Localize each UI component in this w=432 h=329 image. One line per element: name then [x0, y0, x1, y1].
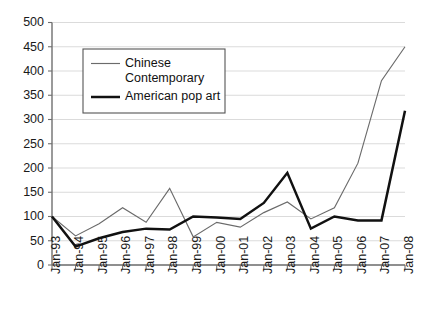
x-tick-label: Jan-00 [214, 236, 228, 274]
series-line-american-pop-art [52, 111, 405, 247]
y-tick-label: 150 [23, 185, 44, 199]
y-tick-label: 200 [23, 161, 44, 175]
x-tick-label: Jan-96 [119, 236, 133, 274]
y-tick-label: 300 [23, 112, 44, 126]
x-axis-labels: Jan-93Jan-94Jan-95Jan-96Jan-97Jan-98Jan-… [49, 236, 416, 274]
x-tick-label: Jan-02 [261, 236, 275, 274]
legend-label: Chinese [125, 56, 171, 70]
chart-legend: ChineseContemporaryAmerican pop art [83, 49, 225, 113]
y-tick-label: 500 [23, 15, 44, 29]
x-tick-label: Jan-99 [190, 236, 204, 274]
x-tick-label: Jan-04 [308, 236, 322, 274]
x-tick-label: Jan-98 [166, 236, 180, 274]
y-tick-label: 0 [37, 258, 44, 272]
y-tick-label: 350 [23, 88, 44, 102]
x-tick-label: Jan-95 [96, 236, 110, 274]
legend-label: American pop art [125, 89, 221, 103]
y-tick-label: 400 [23, 64, 44, 78]
x-tick-label: Jan-93 [49, 236, 63, 274]
legend-label-continued: Contemporary [125, 71, 205, 85]
chart-container: 050100150200250300350400450500 Jan-93Jan… [0, 0, 432, 329]
x-tick-label: Jan-97 [143, 236, 157, 274]
y-tick-label: 100 [23, 209, 44, 223]
x-tick-label: Jan-94 [72, 236, 86, 274]
y-axis-labels: 050100150200250300350400450500 [23, 15, 44, 272]
x-tick-label: Jan-06 [355, 236, 369, 274]
x-tick-label: Jan-01 [237, 236, 251, 274]
x-tick-label: Jan-07 [378, 236, 392, 274]
x-tick-label: Jan-05 [331, 236, 345, 274]
line-chart: 050100150200250300350400450500 Jan-93Jan… [0, 0, 432, 329]
y-tick-label: 250 [23, 137, 44, 151]
x-tick-label: Jan-08 [402, 236, 416, 274]
y-tick-label: 50 [30, 234, 44, 248]
x-tick-label: Jan-03 [284, 236, 298, 274]
y-tick-label: 450 [23, 40, 44, 54]
